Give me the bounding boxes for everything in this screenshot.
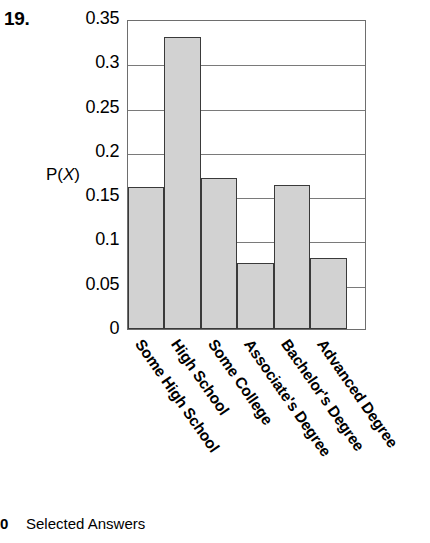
y-axis-tick-label: 0.25 bbox=[59, 97, 119, 118]
y-axis-tick-label: 0 bbox=[59, 318, 119, 339]
y-axis-tick-label: 0.05 bbox=[59, 274, 119, 295]
bar bbox=[310, 258, 346, 329]
y-axis-title: P(X) bbox=[46, 165, 80, 185]
plot-area bbox=[127, 20, 366, 330]
y-axis-tick-label: 0.2 bbox=[59, 141, 119, 162]
bar bbox=[128, 187, 164, 329]
bar bbox=[201, 178, 237, 329]
y-axis-tick-label: 0.35 bbox=[59, 8, 119, 29]
footer-text: Selected Answers bbox=[26, 515, 145, 532]
y-axis-tick-label: 0.15 bbox=[59, 185, 119, 206]
bar bbox=[237, 263, 273, 329]
footer-page-number: 0 bbox=[0, 515, 8, 532]
y-axis-tick-label: 0.1 bbox=[59, 229, 119, 250]
question-number: 19. bbox=[4, 8, 30, 30]
y-axis-tick-label: 0.3 bbox=[59, 52, 119, 73]
chart-page: 19. P(X) 00.050.10.150.20.250.30.35 Some… bbox=[0, 0, 430, 543]
bar bbox=[164, 37, 200, 329]
bar bbox=[274, 185, 310, 329]
bar-series bbox=[128, 21, 365, 329]
y-axis-title-text: P(X) bbox=[46, 165, 80, 184]
